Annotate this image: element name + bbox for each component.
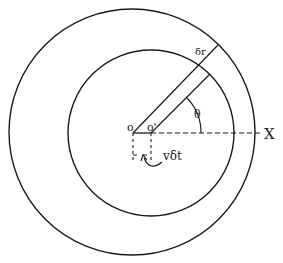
label-shifted-origin: o'	[147, 121, 157, 134]
strip-lower-line	[151, 74, 210, 133]
strip-upper-line	[133, 45, 218, 133]
label-displacement: vδt	[162, 149, 182, 163]
label-x-axis: X	[264, 125, 275, 143]
label-theta: θ	[194, 108, 201, 121]
diagram-canvas: o o' X θ δr vδt	[0, 0, 283, 263]
circles-diagram: o o' X θ δr vδt	[0, 0, 283, 263]
label-strip-width: δr	[195, 46, 206, 57]
label-origin: o	[127, 121, 134, 134]
